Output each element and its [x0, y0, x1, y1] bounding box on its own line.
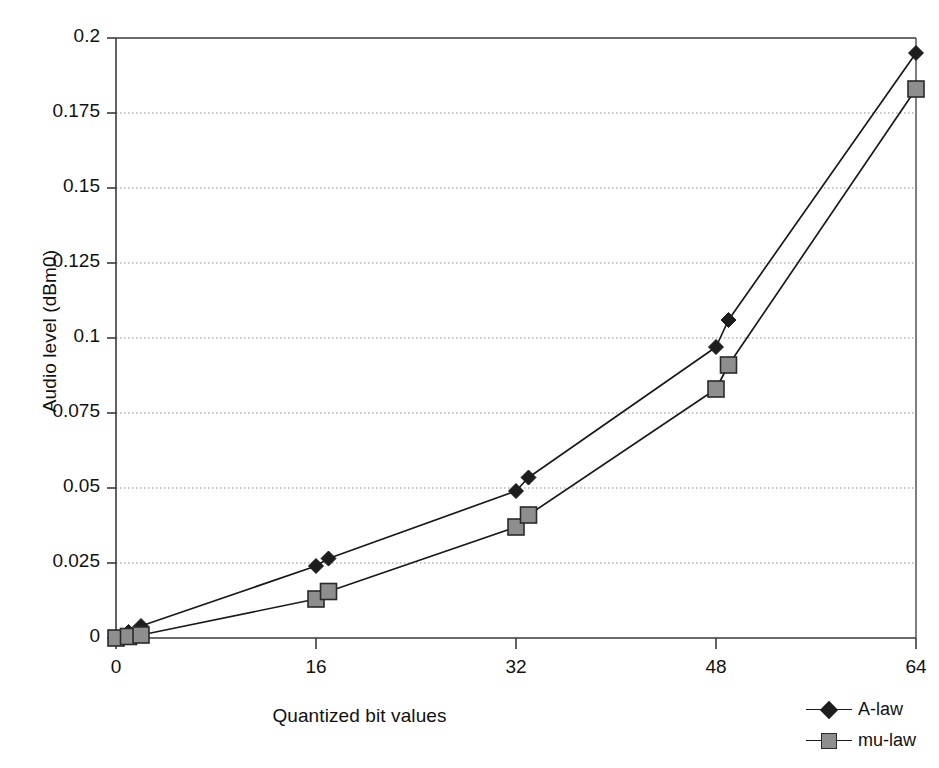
data-point-a-law — [321, 551, 336, 566]
x-tick-label: 48 — [676, 656, 756, 678]
data-point-a-law — [309, 559, 324, 574]
y-tick-label: 0.025 — [0, 550, 100, 572]
data-point-a-law — [721, 313, 736, 328]
chart-legend: A-law mu-law — [806, 694, 936, 756]
y-axis-title-text: Audio level (dBm0) — [39, 250, 60, 412]
data-point-mu-law — [708, 381, 724, 397]
x-tick-label: 0 — [76, 656, 156, 678]
data-point-mu-law — [721, 357, 737, 373]
chart-container: 00.0250.050.0750.10.1250.150.1750.2 0163… — [0, 0, 939, 768]
diamond-marker-icon — [806, 700, 852, 720]
series-line-mu-law — [116, 89, 916, 638]
y-tick-label: 0.175 — [0, 100, 100, 122]
data-point-mu-law — [133, 627, 149, 643]
y-tick-label: 0.2 — [0, 25, 100, 47]
chart-plot-area — [0, 0, 939, 768]
y-tick-label: 0 — [0, 625, 100, 647]
data-point-mu-law — [321, 584, 337, 600]
tick-marks — [107, 38, 916, 649]
series-markers — [108, 46, 924, 647]
x-axis-title: Quantized bit values — [0, 705, 939, 727]
series-line-a-law — [116, 53, 916, 638]
x-tick-label: 32 — [476, 656, 556, 678]
x-tick-label: 64 — [876, 656, 939, 678]
x-tick-label: 16 — [276, 656, 356, 678]
legend-item-mu-law: mu-law — [806, 725, 936, 756]
x-axis-title-text: Quantized bit values — [272, 705, 446, 726]
legend-label-a-law: A-law — [852, 699, 903, 720]
series-lines — [116, 53, 916, 638]
y-axis-title: Audio level (dBm0) — [39, 131, 61, 531]
data-point-a-law — [909, 46, 924, 61]
legend-label-mu-law: mu-law — [852, 730, 916, 751]
data-point-mu-law — [521, 507, 537, 523]
data-point-a-law — [709, 340, 724, 355]
square-marker-icon — [806, 731, 852, 751]
legend-item-a-law: A-law — [806, 694, 936, 725]
data-point-mu-law — [908, 81, 924, 97]
